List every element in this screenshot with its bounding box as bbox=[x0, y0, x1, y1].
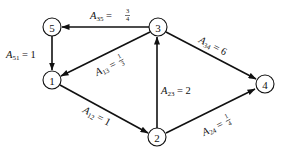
edge-label-51: A51 = 1 bbox=[5, 49, 36, 62]
svg-text:4: 4 bbox=[262, 79, 268, 91]
edge-label-12: A12 = 1 bbox=[79, 104, 112, 130]
node-1: 1 bbox=[43, 71, 61, 89]
svg-text:2: 2 bbox=[154, 132, 160, 144]
edge-label-13: A13 = 1 3 bbox=[91, 52, 127, 80]
svg-text:A24 =: A24 = bbox=[199, 118, 225, 140]
svg-text:3: 3 bbox=[120, 59, 126, 67]
edge-label-35-den: 4 bbox=[126, 15, 130, 22]
node-4: 4 bbox=[256, 75, 274, 93]
svg-text:5: 5 bbox=[49, 22, 55, 34]
node-5: 5 bbox=[43, 18, 61, 36]
svg-text:1: 1 bbox=[116, 52, 122, 60]
graph-diagram: 5 3 1 4 2 A35 = 3 4 A51 = 1 A13 = 1 3 A1… bbox=[0, 0, 287, 159]
edge-label-35-num: 3 bbox=[126, 7, 129, 14]
edge-label-35: A35 = bbox=[89, 10, 112, 23]
svg-text:1: 1 bbox=[223, 112, 229, 120]
svg-text:A12 = 1: A12 = 1 bbox=[79, 104, 112, 130]
node-2: 2 bbox=[148, 128, 166, 146]
edge-label-23: A23 = 2 bbox=[160, 85, 191, 98]
svg-text:3: 3 bbox=[155, 22, 161, 34]
svg-text:4: 4 bbox=[227, 119, 234, 127]
edge-label-24: A24 = 1 4 bbox=[198, 112, 234, 140]
edge-3-4 bbox=[166, 32, 256, 79]
svg-text:1: 1 bbox=[49, 75, 55, 87]
svg-text:A13 =: A13 = bbox=[92, 58, 118, 80]
node-3: 3 bbox=[149, 18, 167, 36]
